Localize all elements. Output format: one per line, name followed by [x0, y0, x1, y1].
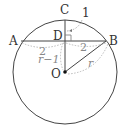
label-o: O: [51, 67, 61, 81]
label-a: A: [8, 34, 18, 48]
annotation-od-brace: [61, 43, 64, 70]
measure-cd: 1: [82, 6, 90, 20]
label-d: D: [53, 29, 63, 43]
arrow-icon: [69, 29, 72, 32]
measure-od: r−1: [38, 53, 59, 66]
label-c: C: [60, 3, 69, 17]
right-angle-marker: [65, 35, 71, 41]
measure-db: 2: [80, 41, 87, 54]
center-point-o: [63, 70, 67, 74]
circle-diagram: C A D B O 1 2 2 r−1 r: [0, 0, 128, 133]
label-b: B: [109, 34, 118, 48]
measure-ob: r: [88, 57, 94, 70]
